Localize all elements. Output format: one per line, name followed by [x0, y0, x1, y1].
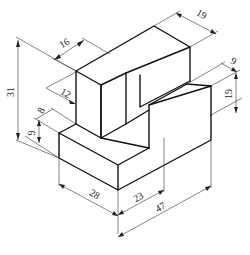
dim-16-ext-left [52, 58, 76, 71]
top-block-front-face [140, 75, 190, 107]
dim-47-arrow-b [205, 186, 211, 191]
label-8: 8 [35, 105, 47, 115]
notch-lower-edge [101, 138, 149, 148]
base-front-right-face [118, 115, 211, 190]
right-step-back-edge [187, 84, 211, 86]
label-23: 23 [131, 190, 145, 205]
dim-28-arrow-a [59, 184, 65, 189]
label-28: 28 [88, 187, 102, 202]
dim-19top-arrow-b [210, 29, 216, 34]
dim-9r-ext-a [187, 62, 225, 84]
dim-47-arrow-a [118, 232, 124, 237]
label-16: 16 [57, 36, 71, 51]
dim-9-arrow-top [37, 120, 41, 126]
label-47: 47 [153, 200, 167, 215]
dim-28-line [59, 184, 118, 216]
dim-9r-arrow-b [231, 67, 237, 72]
dim-31-ext-bottom [16, 140, 59, 158]
label-9-right: 9 [229, 55, 239, 67]
dim-19r-arrow-bottom [234, 107, 238, 113]
dimension-lines [16, 11, 242, 237]
tower-bottom-edge [76, 124, 101, 138]
dim-12-ext-top [46, 72, 76, 88]
dim-16-ext-right [82, 38, 110, 54]
label-19-top: 19 [195, 7, 209, 22]
dim-9-ext [25, 136, 59, 158]
base-front-left-face [59, 133, 118, 190]
dim-31-arrow-top [16, 40, 20, 47]
dim-16-arrow-b [77, 40, 84, 47]
base-top-front-edge [118, 148, 149, 165]
dim-23-arrow-a [118, 210, 124, 215]
dim-19top-arrow-a [176, 13, 182, 18]
isometric-drawing: 31 16 12 8 9 28 23 47 19 9 19 [0, 0, 250, 255]
label-12: 12 [59, 86, 73, 101]
dim-31-arrow-bottom [16, 133, 20, 140]
label-31: 31 [5, 87, 16, 97]
right-step-face [149, 86, 211, 148]
object-edges [59, 26, 211, 190]
label-19-right: 19 [223, 89, 234, 99]
tower-front-face [76, 71, 101, 138]
notch-edge [126, 110, 149, 124]
top-block-outline [76, 26, 190, 85]
label-9-left: 9 [26, 131, 37, 136]
dim-19r-ext-bottom [211, 98, 242, 115]
dim-19r-arrow-top [234, 73, 238, 79]
dim-23-arrow-b [158, 190, 164, 195]
dimension-labels: 31 16 12 8 9 28 23 47 19 9 19 [5, 7, 239, 215]
dim-9-arrow-bottom [37, 137, 41, 143]
base-top-left-edge [59, 124, 76, 133]
dim-28-arrow-b [112, 211, 118, 216]
dim-8-ext-b [51, 108, 76, 124]
dim-16-arrow-a [54, 54, 61, 60]
